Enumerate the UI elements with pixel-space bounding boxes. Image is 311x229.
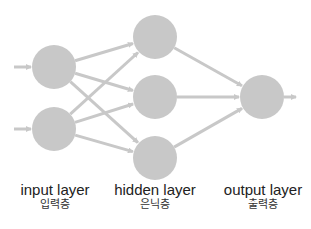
connection-edge <box>174 48 242 86</box>
output-layer-label-en: output layer <box>208 181 311 198</box>
output-layer-label-ko: 출력층 <box>208 198 311 212</box>
connection-edge <box>75 44 133 61</box>
hidden-node <box>133 75 177 119</box>
connection-edge <box>75 104 133 122</box>
input-layer-label-en: input layer <box>0 181 110 198</box>
nodes <box>32 15 284 180</box>
output-layer-label: output layer 출력층 <box>208 181 311 212</box>
connection-edge <box>75 135 133 152</box>
hidden-node <box>133 136 177 180</box>
input-node <box>32 45 76 89</box>
input-layer-label-ko: 입력층 <box>0 198 110 212</box>
hidden-layer-label-en: hidden layer <box>100 181 210 198</box>
input-layer-label: input layer 입력층 <box>0 181 110 212</box>
connection-edge <box>174 108 242 147</box>
input-node <box>32 107 76 151</box>
hidden-node <box>133 15 177 59</box>
hidden-layer-label-ko: 은닉층 <box>100 198 210 212</box>
hidden-layer-label: hidden layer 은닉층 <box>100 181 210 212</box>
output-node <box>240 75 284 119</box>
